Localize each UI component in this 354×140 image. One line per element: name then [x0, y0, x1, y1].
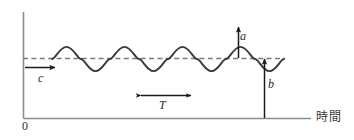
amplitude-label: a	[240, 30, 246, 42]
x-axis-label: 時間	[316, 111, 341, 123]
diagram-canvas	[0, 0, 354, 140]
offset-label: b	[268, 78, 274, 90]
wave-diagram-figure: 0 a b c T 時間	[0, 0, 354, 140]
onset-label: c	[38, 72, 43, 84]
origin-label: 0	[22, 120, 28, 132]
period-label: T	[159, 99, 166, 111]
